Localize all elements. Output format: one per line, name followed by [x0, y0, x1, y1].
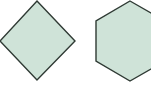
- hexagon-shape: [96, 1, 151, 81]
- shapes-canvas: [0, 0, 151, 85]
- diamond-shape: [0, 1, 75, 80]
